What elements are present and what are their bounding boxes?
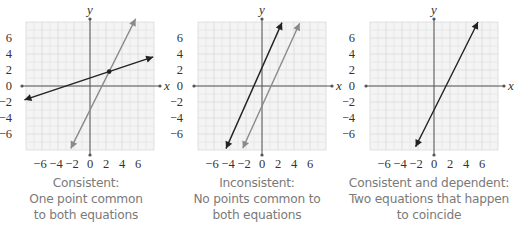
y-tick-label: 0	[349, 79, 355, 93]
plot-area: xy6420−2−4−6−6−4−20246	[171, 0, 343, 175]
y-tick-label: 4	[349, 47, 356, 61]
x-tick-label: −6	[33, 157, 46, 171]
intersection-point	[107, 69, 112, 74]
graph-inconsistent: xy6420−2−4−6−6−4−20246 Inconsistent: No …	[171, 0, 343, 229]
caption-line-1: Consistent and dependent:	[343, 175, 515, 191]
x-axis-label: x	[335, 78, 342, 93]
x-tick-label: 4	[291, 157, 298, 171]
x-axis-label: x	[507, 78, 514, 93]
caption-line-2: No points common to	[171, 191, 343, 207]
caption-line-3: both equations	[171, 207, 343, 223]
y-tick-label: 6	[177, 31, 183, 45]
x-axis-arrow-icon	[158, 84, 161, 87]
y-tick-label: 2	[6, 63, 12, 77]
x-tick-label: 2	[447, 157, 453, 171]
x-tick-label: 6	[135, 157, 141, 171]
x-tick-label: 2	[275, 157, 281, 171]
y-tick-label: 0	[177, 79, 183, 93]
x-tick-label: −4	[221, 157, 235, 171]
y-tick-label: 6	[6, 31, 12, 45]
x-axis-arrow-icon	[192, 84, 195, 87]
y-tick-label: −4	[171, 111, 184, 125]
caption-line-1: Consistent:	[0, 175, 172, 191]
plot-area: xy6420−2−4−6−6−4−20246	[0, 0, 172, 175]
x-tick-label: −6	[377, 157, 390, 171]
x-tick-label: 2	[103, 157, 109, 171]
x-tick-label: 0	[87, 157, 93, 171]
x-tick-label: 0	[431, 157, 437, 171]
y-tick-label: −6	[343, 127, 355, 141]
y-tick-label: 2	[177, 63, 183, 77]
x-tick-label: 4	[463, 157, 470, 171]
y-tick-label: −6	[171, 127, 183, 141]
x-tick-label: −2	[65, 157, 78, 171]
x-axis-label: x	[163, 78, 170, 93]
y-axis-label: y	[429, 2, 437, 17]
caption-line-1: Inconsistent:	[171, 175, 343, 191]
x-axis-arrow-icon	[502, 84, 505, 87]
y-tick-label: −4	[343, 111, 356, 125]
caption-line-3: to coincide	[343, 207, 515, 223]
caption-line-2: One point common	[0, 191, 172, 207]
x-axis-arrow-icon	[330, 84, 333, 87]
x-axis-arrow-icon	[364, 84, 367, 87]
x-tick-label: 6	[307, 157, 313, 171]
x-tick-label: −2	[409, 157, 422, 171]
caption: Inconsistent: No points common to both e…	[171, 175, 343, 223]
y-axis-arrow-icon	[260, 17, 263, 20]
y-axis-arrow-icon	[432, 17, 435, 20]
y-axis-arrow-icon	[88, 17, 91, 20]
y-axis-label: y	[85, 2, 93, 17]
x-tick-label: 0	[259, 157, 265, 171]
y-axis-label: y	[257, 2, 265, 17]
graph-dependent: xy6420−2−4−6−6−4−20246 Consistent and de…	[343, 0, 515, 229]
caption-line-3: to both equations	[0, 207, 172, 223]
y-tick-label: −2	[343, 95, 355, 109]
x-axis-arrow-icon	[20, 84, 23, 87]
x-tick-label: −6	[205, 157, 218, 171]
y-tick-label: 4	[6, 47, 13, 61]
plot-area: xy6420−2−4−6−6−4−20246	[343, 0, 515, 175]
x-tick-label: −2	[237, 157, 250, 171]
y-tick-label: 4	[177, 47, 184, 61]
caption: Consistent and dependent: Two equations …	[343, 175, 515, 223]
y-tick-label: 6	[349, 31, 355, 45]
x-tick-label: 6	[479, 157, 485, 171]
caption: Consistent: One point common to both equ…	[0, 175, 172, 223]
x-tick-label: −4	[393, 157, 407, 171]
x-tick-label: −4	[49, 157, 63, 171]
y-tick-label: −4	[0, 111, 13, 125]
y-tick-label: 0	[6, 79, 12, 93]
caption-line-2: Two equations that happen	[343, 191, 515, 207]
y-tick-label: −6	[0, 127, 12, 141]
y-tick-label: −2	[171, 95, 183, 109]
y-tick-label: 2	[349, 63, 355, 77]
y-tick-label: −2	[0, 95, 12, 109]
x-tick-label: 4	[119, 157, 126, 171]
graph-consistent: xy6420−2−4−6−6−4−20246 Consistent: One p…	[0, 0, 172, 229]
